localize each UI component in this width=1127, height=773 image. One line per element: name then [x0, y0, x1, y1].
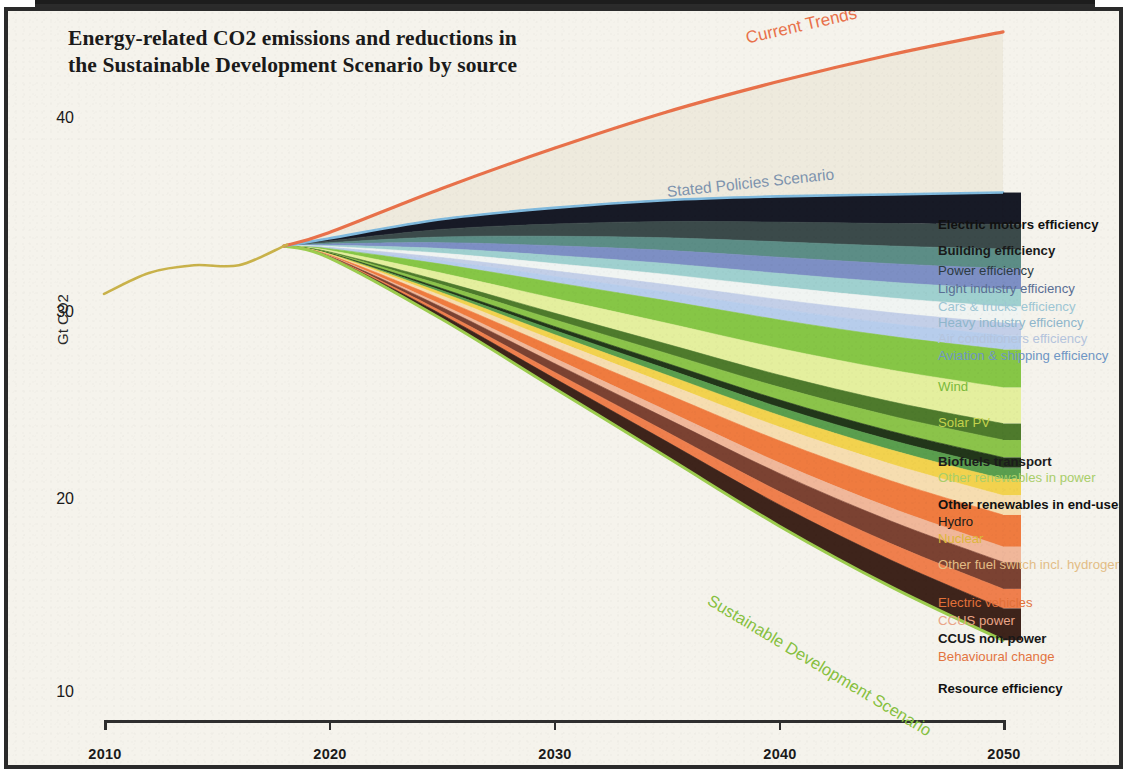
- legend-item-label: CCUS non-power: [938, 631, 1046, 646]
- legend-item-label: Light industry efficiency: [938, 281, 1075, 296]
- legend-item-label: Biofuels transport: [938, 454, 1052, 469]
- x-tick-2020: 2020: [290, 746, 370, 762]
- legend-item-label: Nuclear: [938, 531, 983, 546]
- x-tick-2050: 2050: [964, 746, 1044, 762]
- y-tick-10: 10: [30, 683, 74, 701]
- legend-swatch: [1003, 515, 1021, 547]
- y-tick-20: 20: [30, 490, 74, 508]
- x-tick-2010: 2010: [65, 746, 145, 762]
- legend-item-label: Electric vehicles: [938, 595, 1033, 610]
- legend-item-label: Electric motors efficiency: [938, 217, 1099, 232]
- figure-page: Energy-related CO2 emissions and reducti…: [0, 0, 1127, 773]
- legend-item-label: Other renewables in power: [938, 470, 1096, 485]
- title-line-2: the Sustainable Development Scenario by …: [68, 53, 517, 77]
- legend-item-nuclear[interactable]: Nuclear: [938, 531, 983, 546]
- legend-item-solar-pv[interactable]: Solar PV: [938, 415, 990, 430]
- x-axis-cap-left: [104, 720, 107, 730]
- legend-item-label: CCUS power: [938, 613, 1015, 628]
- legend-item-label: Building efficiency: [938, 243, 1055, 258]
- legend-item-label: Resource efficiency: [938, 681, 1063, 696]
- legend-item-label: Hydro: [938, 514, 973, 529]
- legend-swatch: [1003, 424, 1021, 440]
- legend-item-electric-vehicles[interactable]: Electric vehicles: [938, 595, 1033, 610]
- legend-item-behavioural-change[interactable]: Behavioural change: [938, 649, 1055, 664]
- x-tick-2040: 2040: [740, 746, 820, 762]
- y-tick-40: 40: [30, 109, 74, 127]
- legend-item-other-fuel-switch-incl-hydrogen[interactable]: Other fuel switch incl. hydrogen: [938, 557, 1119, 572]
- y-tick-30: 30: [30, 303, 74, 321]
- legend-item-label: Aviation & shipping efficiency: [938, 348, 1108, 363]
- legend-item-label: Solar PV: [938, 415, 990, 430]
- legend-swatch: [1003, 388, 1021, 424]
- legend-item-label: Other fuel switch incl. hydrogen: [938, 557, 1119, 572]
- x-tickmark-2040: [779, 722, 781, 730]
- legend-item-ccus-power[interactable]: CCUS power: [938, 613, 1015, 628]
- legend-item-label: Other renewables in end-uses: [938, 497, 1119, 512]
- x-axis-cap-right: [1003, 720, 1006, 730]
- legend-colour-strip: [1003, 193, 1021, 641]
- legend-item-ccus-non-power[interactable]: CCUS non-power: [938, 631, 1046, 646]
- legend-item-other-renewables-in-end-uses[interactable]: Other renewables in end-uses: [938, 497, 1119, 512]
- x-tickmark-2020: [329, 722, 331, 730]
- legend-item-aviation-shipping-efficiency[interactable]: Aviation & shipping efficiency: [938, 348, 1108, 363]
- legend-item-hydro[interactable]: Hydro: [938, 514, 973, 529]
- legend-item-wind[interactable]: Wind: [938, 379, 968, 394]
- legend-item-label: Behavioural change: [938, 649, 1055, 664]
- legend-item-power-efficiency[interactable]: Power efficiency: [938, 263, 1034, 278]
- legend-item-other-renewables-in-power[interactable]: Other renewables in power: [938, 470, 1096, 485]
- title-line-1: Energy-related CO2 emissions and reducti…: [68, 26, 517, 50]
- legend-item-biofuels-transport[interactable]: Biofuels transport: [938, 454, 1052, 469]
- legend-item-label: Cars & trucks efficiency: [938, 299, 1076, 314]
- legend-item-building-efficiency[interactable]: Building efficiency: [938, 243, 1055, 258]
- x-tickmark-2030: [554, 722, 556, 730]
- legend-item-electric-motors-efficiency[interactable]: Electric motors efficiency: [938, 217, 1099, 232]
- legend-item-label: Power efficiency: [938, 263, 1034, 278]
- page-top-dark-bar-inner: [35, 0, 1095, 4]
- legend-item-label: Air conditioners efficiency: [938, 331, 1087, 346]
- page-title: Energy-related CO2 emissions and reducti…: [68, 25, 688, 79]
- legend-item-label: Heavy industry efficiency: [938, 315, 1084, 330]
- line-historical-emissions: [104, 245, 287, 294]
- figure-canvas: Energy-related CO2 emissions and reducti…: [8, 11, 1119, 765]
- legend-item-heavy-industry-efficiency[interactable]: Heavy industry efficiency: [938, 315, 1084, 330]
- legend-item-cars-trucks-efficiency[interactable]: Cars & trucks efficiency: [938, 299, 1076, 314]
- legend-item-air-conditioners-efficiency[interactable]: Air conditioners efficiency: [938, 331, 1087, 346]
- x-tick-2030: 2030: [515, 746, 595, 762]
- legend-item-resource-efficiency[interactable]: Resource efficiency: [938, 681, 1063, 696]
- legend-item-light-industry-efficiency[interactable]: Light industry efficiency: [938, 281, 1075, 296]
- legend-item-label: Wind: [938, 379, 968, 394]
